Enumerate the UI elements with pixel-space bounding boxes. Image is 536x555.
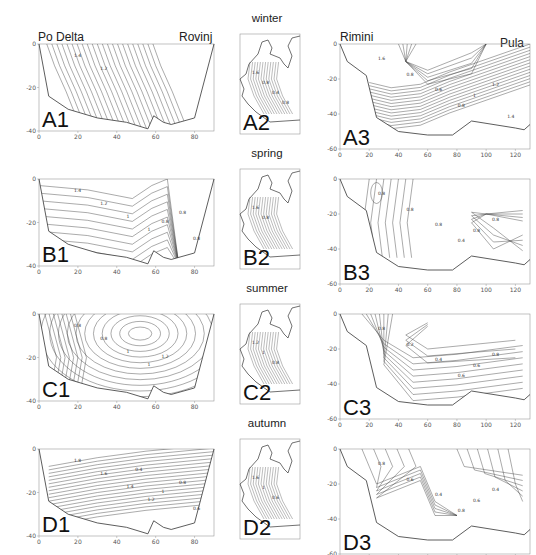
contour-label: 0.4 bbox=[435, 492, 442, 497]
contour-label: 0.8 bbox=[458, 508, 465, 513]
contour-line bbox=[477, 449, 522, 486]
y-tick-label: -20 bbox=[327, 480, 337, 487]
y-tick-label: -40 bbox=[327, 515, 337, 522]
contour-line bbox=[377, 449, 457, 516]
contour-line bbox=[374, 449, 457, 516]
contour-line bbox=[488, 449, 523, 491]
contour-label: 0.6 bbox=[407, 477, 414, 482]
y-tick-label: 0 bbox=[333, 445, 337, 452]
contour-lines bbox=[362, 449, 523, 516]
contour-line bbox=[467, 449, 523, 481]
contour-line bbox=[508, 449, 523, 502]
contour-label: 0.8 bbox=[378, 461, 385, 466]
y-tick-label: -60 bbox=[327, 550, 337, 555]
contour-label: 0.6 bbox=[473, 498, 480, 503]
contour-line bbox=[362, 449, 457, 516]
contour-label: 0.4 bbox=[492, 487, 499, 492]
panel-label-D3: D3 bbox=[343, 532, 371, 554]
